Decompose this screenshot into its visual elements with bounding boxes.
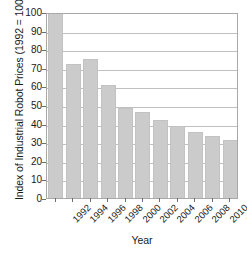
bar[interactable] [205,136,220,198]
x-axis-tick-labels: 1992199419961998200020022004200620082010… [46,202,238,232]
bars-group [47,14,237,198]
x-tick-label: 1998 [122,202,145,225]
bar[interactable] [66,64,81,198]
y-tick-label: 50 [31,100,42,112]
y-axis-tick-labels: 0102030405060708090100 [16,7,42,199]
y-tick-label: 60 [31,81,42,93]
y-tick-label: 70 [31,63,42,75]
bar[interactable] [223,140,238,198]
y-tick-label: 100 [25,7,42,19]
y-tick-label: 90 [31,26,42,38]
bar[interactable] [135,112,150,198]
bar[interactable] [83,59,98,199]
y-tick-label: 40 [31,119,42,131]
bar[interactable] [101,85,116,198]
x-tick-label: 1994 [87,202,110,225]
bar-chart-figure: Index of Industrial Robot Prices (1992 =… [0,0,247,256]
bar[interactable] [48,13,63,198]
bar[interactable] [118,108,133,198]
bar[interactable] [170,126,185,198]
bar[interactable] [188,132,203,198]
y-tick-label: 80 [31,44,42,56]
y-tick-label: 20 [31,156,42,168]
x-tick-label: 2010 [227,202,247,225]
bar[interactable] [153,120,168,198]
y-tick-label: 10 [31,174,42,186]
plot-area [46,13,238,199]
x-axis-title: Year [46,234,238,247]
y-tick-label: 30 [31,137,42,149]
